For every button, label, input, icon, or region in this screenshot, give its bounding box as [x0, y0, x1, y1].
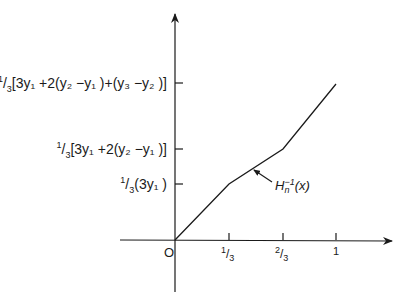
- x-ticks: [229, 233, 336, 240]
- x-axis: [120, 240, 392, 241]
- x-tick-label-3: 1: [333, 246, 339, 257]
- y-tick-label-3: 1/3[3y₁ +2(y₂ −y₁ )+(y₃ −y₂ )]: [0, 75, 167, 93]
- x-tick-label-1: 1/3: [221, 246, 234, 263]
- curve-label: H−1n(x): [275, 178, 310, 194]
- y-tick-label-1: 1/3(3y₁ ): [120, 176, 167, 194]
- x-tick-label-2: 2/3: [275, 246, 288, 263]
- inverse-cdf-curve: [175, 84, 336, 240]
- y-ticks: [175, 83, 183, 184]
- origin-label: O: [164, 246, 174, 259]
- curve-label-pointer: [254, 170, 272, 182]
- y-tick-label-2: 1/3[3y₁ +2(y₂ −y₁ )]: [57, 141, 168, 159]
